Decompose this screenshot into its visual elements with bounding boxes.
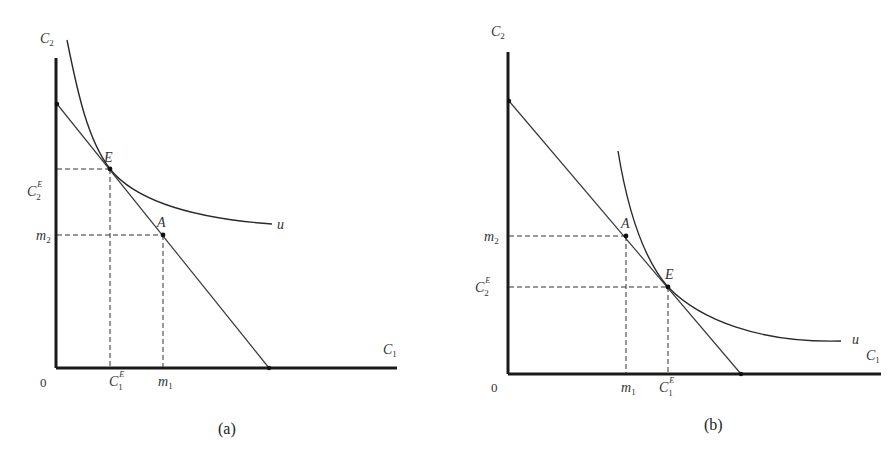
budget-intercept-y-b bbox=[507, 99, 511, 103]
x-tick-c1e-b: CE1 bbox=[659, 376, 674, 398]
indifference-curve-a bbox=[67, 40, 272, 224]
y-tick-c2e-a: CE2 bbox=[27, 180, 42, 202]
x-axis-label-a: C1 bbox=[383, 342, 397, 359]
point-e-label-a: E bbox=[103, 150, 113, 165]
indifference-curve-b bbox=[618, 151, 841, 341]
point-a-b bbox=[624, 234, 629, 239]
caption-a: (a) bbox=[218, 420, 236, 438]
curve-label-a: u bbox=[277, 217, 284, 232]
x-tick-c1e-a: CE1 bbox=[109, 370, 124, 392]
origin-label-a: 0 bbox=[40, 375, 47, 390]
budget-intercept-x-a bbox=[267, 366, 271, 370]
y-tick-c2e-b: CE2 bbox=[475, 276, 490, 298]
diagram-canvas: C2 C1 0 u E A CE2 m2 CE1 m1 (a) C2 bbox=[0, 0, 893, 467]
y-tick-m2-b: m2 bbox=[484, 229, 499, 246]
y-tick-m2-a: m2 bbox=[36, 228, 51, 245]
panel-b: C2 C1 0 u A E m2 CE2 m1 CE1 (b) bbox=[475, 24, 881, 434]
point-e-a bbox=[108, 167, 113, 172]
budget-intercept-x-b bbox=[739, 372, 743, 376]
curve-label-b: u bbox=[852, 332, 859, 347]
x-tick-m1-b: m1 bbox=[621, 380, 636, 397]
point-e-label-b: E bbox=[664, 267, 674, 282]
caption-b: (b) bbox=[704, 416, 723, 434]
point-a-label-a: A bbox=[156, 215, 166, 230]
x-tick-m1-a: m1 bbox=[158, 374, 173, 391]
x-axis-label-b: C1 bbox=[866, 348, 880, 365]
y-axis-label-a: C2 bbox=[40, 31, 54, 48]
point-a-label-b: A bbox=[620, 216, 630, 231]
origin-label-b: 0 bbox=[491, 380, 498, 395]
point-e-b bbox=[666, 285, 671, 290]
point-a-a bbox=[161, 233, 166, 238]
panel-a: C2 C1 0 u E A CE2 m2 CE1 m1 (a) bbox=[27, 31, 397, 438]
y-axis-label-b: C2 bbox=[491, 24, 505, 41]
budget-intercept-y-a bbox=[55, 102, 59, 106]
